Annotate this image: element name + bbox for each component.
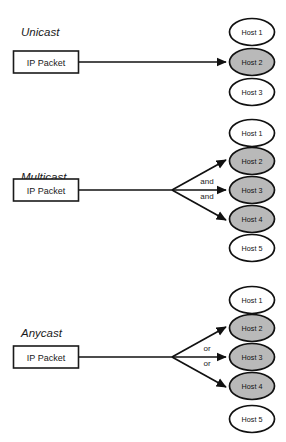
delivery-arrow-to-host-4 [172, 190, 226, 220]
host-node: Host 4 [230, 206, 275, 233]
host-node: Host 1 [230, 287, 275, 314]
host-node: Host 2 [230, 49, 275, 76]
packet-box-label: IP Packet [27, 353, 66, 363]
host-label: Host 4 [242, 382, 263, 391]
packet-source-multicast: IP Packet [14, 179, 79, 201]
host-label: Host 1 [242, 129, 263, 138]
section-unicast: Unicast IP Packet Host 1 Host 2 Host 3 [14, 19, 275, 106]
host-label: Host 1 [242, 296, 263, 305]
conjunction-label-or-1: or [203, 344, 210, 353]
host-label: Host 2 [242, 324, 263, 333]
host-node: Host 4 [230, 373, 275, 400]
host-label: Host 1 [242, 28, 263, 37]
section-multicast: Multicast IP Packet and and Host 1 Host … [14, 120, 275, 262]
host-node: Host 2 [230, 148, 275, 175]
delivery-arrow-to-host-2 [172, 160, 226, 190]
host-label: Host 3 [242, 88, 263, 97]
host-label: Host 5 [242, 244, 263, 253]
host-node: Host 3 [230, 177, 275, 204]
host-label: Host 2 [242, 157, 263, 166]
packet-source-anycast: IP Packet [14, 346, 79, 368]
host-node: Host 3 [230, 79, 275, 106]
conjunction-label-and-2: and [200, 192, 213, 201]
delivery-arrow-to-host-2 [172, 327, 226, 357]
section-anycast: Anycast IP Packet or or Host 1 Host 2 Ho… [14, 287, 275, 433]
host-label: Host 4 [242, 215, 263, 224]
packet-source-unicast: IP Packet [14, 51, 79, 73]
host-node: Host 1 [230, 19, 275, 46]
host-node: Host 3 [230, 344, 275, 371]
section-label-unicast: Unicast [21, 26, 60, 38]
host-node: Host 5 [230, 235, 275, 262]
packet-box-label: IP Packet [27, 58, 66, 68]
host-label: Host 3 [242, 186, 263, 195]
host-label: Host 2 [242, 58, 263, 67]
host-node: Host 5 [230, 406, 275, 433]
host-node: Host 2 [230, 315, 275, 342]
host-list-anycast: Host 1 Host 2 Host 3 Host 4 Host 5 [230, 287, 275, 433]
conjunction-label-or-2: or [203, 359, 210, 368]
packet-box-label: IP Packet [27, 186, 66, 196]
host-label: Host 5 [242, 415, 263, 424]
host-list-unicast: Host 1 Host 2 Host 3 [230, 19, 275, 106]
section-label-anycast: Anycast [20, 327, 63, 339]
host-label: Host 3 [242, 353, 263, 362]
host-list-multicast: Host 1 Host 2 Host 3 Host 4 Host 5 [230, 120, 275, 262]
ip-delivery-modes-diagram: Unicast IP Packet Host 1 Host 2 Host 3 M… [0, 0, 286, 442]
host-node: Host 1 [230, 120, 275, 147]
conjunction-label-and-1: and [200, 177, 213, 186]
delivery-arrow-to-host-4 [172, 357, 226, 387]
